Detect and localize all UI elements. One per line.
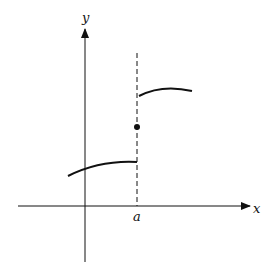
- a-tick-label: a: [133, 209, 141, 224]
- discontinuity-graph: y x a: [0, 0, 274, 272]
- function-value-point: [134, 124, 140, 130]
- x-axis-label: x: [253, 201, 261, 216]
- right-branch-curve: [139, 88, 192, 96]
- left-branch-curve: [68, 162, 137, 176]
- y-axis-label: y: [81, 10, 90, 25]
